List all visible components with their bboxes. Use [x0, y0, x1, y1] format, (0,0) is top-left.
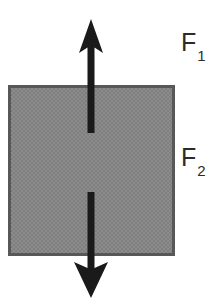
force-label-f2-symbol: F — [181, 143, 196, 171]
force-label-f1-symbol: F — [181, 28, 196, 56]
force-arrows-layer — [0, 0, 209, 302]
force-label-f1: F1 — [181, 30, 205, 59]
force-label-f1-subscript: 1 — [197, 47, 205, 64]
upward-force-arrow — [79, 19, 103, 133]
force-label-f2-subscript: 2 — [197, 162, 205, 179]
force-label-f2: F2 — [181, 145, 205, 174]
force-diagram-figure: F1 F2 — [0, 0, 209, 302]
downward-force-arrow — [74, 192, 108, 298]
